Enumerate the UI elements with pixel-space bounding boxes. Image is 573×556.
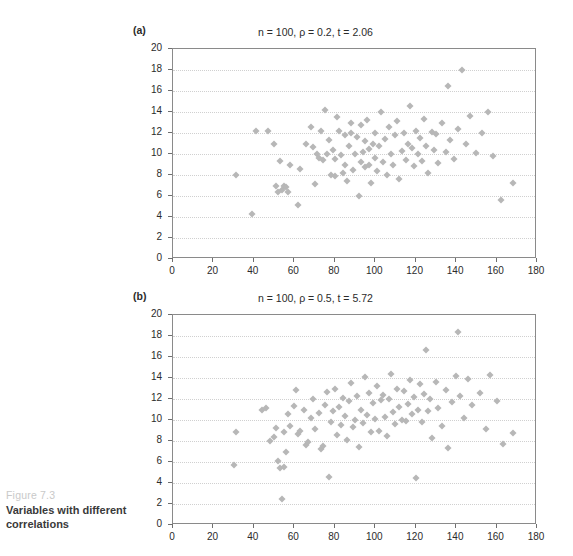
data-point [493, 398, 500, 405]
data-point [404, 401, 411, 408]
xtick-label-20: 20 [197, 532, 227, 542]
ytick-mark-10 [168, 419, 172, 420]
ytick-mark-8 [168, 440, 172, 441]
data-point [281, 428, 288, 435]
data-point [293, 386, 300, 393]
data-point [273, 425, 280, 432]
data-point [469, 402, 476, 409]
data-point [426, 395, 433, 402]
data-point [333, 431, 340, 438]
gridline-y-16 [173, 357, 535, 358]
data-point [422, 346, 429, 353]
ytick-label-12: 12 [138, 393, 162, 403]
xtick-mark-80 [334, 524, 335, 528]
ytick-label-10: 10 [138, 414, 162, 424]
data-point [297, 427, 304, 434]
xtick-label-120: 120 [400, 532, 430, 542]
data-point [372, 415, 379, 422]
xtick-mark-160 [496, 524, 497, 528]
data-point [305, 439, 312, 446]
data-point [287, 423, 294, 430]
ytick-label-16: 16 [138, 351, 162, 361]
ytick-mark-4 [168, 482, 172, 483]
data-point [444, 445, 451, 452]
data-point [420, 390, 427, 397]
data-point [442, 386, 449, 393]
ytick-mark-20 [168, 314, 172, 315]
ytick-label-6: 6 [138, 456, 162, 466]
data-point [424, 407, 431, 414]
xtick-mark-60 [293, 524, 294, 528]
data-point [455, 328, 462, 335]
data-point [337, 422, 344, 429]
xtick-mark-100 [374, 524, 375, 528]
data-point [400, 387, 407, 394]
data-point [509, 429, 516, 436]
data-point [406, 377, 413, 384]
data-point [321, 402, 328, 409]
ytick-mark-16 [168, 356, 172, 357]
ytick-label-18: 18 [138, 330, 162, 340]
data-point [434, 405, 441, 412]
data-point [366, 389, 373, 396]
xtick-label-60: 60 [278, 532, 308, 542]
data-point [285, 410, 292, 417]
ytick-mark-2 [168, 503, 172, 504]
xtick-mark-140 [455, 524, 456, 528]
data-point [279, 495, 286, 502]
xtick-label-180: 180 [521, 532, 551, 542]
xtick-label-160: 160 [481, 532, 511, 542]
xtick-label-100: 100 [359, 532, 389, 542]
xtick-mark-180 [536, 524, 537, 528]
data-point [384, 432, 391, 439]
panel-label-b: (b) [133, 290, 146, 302]
data-point [311, 426, 318, 433]
data-point [386, 395, 393, 402]
data-point [230, 462, 237, 469]
data-point [358, 406, 365, 413]
data-point [331, 385, 338, 392]
data-point [323, 388, 330, 395]
data-point [376, 427, 383, 434]
data-point [396, 404, 403, 411]
gridline-y-6 [173, 462, 535, 463]
xtick-mark-120 [415, 524, 416, 528]
data-point [301, 406, 308, 413]
data-point [414, 406, 421, 413]
data-point [309, 395, 316, 402]
ytick-label-4: 4 [138, 477, 162, 487]
data-point [388, 370, 395, 377]
gridline-y-14 [173, 378, 535, 379]
data-point [355, 444, 362, 451]
ytick-mark-6 [168, 461, 172, 462]
panel-title-b: n = 100, ρ = 0.5, t = 5.72 [258, 292, 373, 304]
data-point [291, 403, 298, 410]
ytick-mark-12 [168, 398, 172, 399]
data-point [499, 441, 506, 448]
xtick-label-140: 140 [440, 532, 470, 542]
xtick-mark-40 [253, 524, 254, 528]
gridline-y-8 [173, 441, 535, 442]
data-point [483, 426, 490, 433]
data-point [349, 424, 356, 431]
xtick-label-40: 40 [238, 532, 268, 542]
figure-number: Figure 7.3 [6, 488, 146, 502]
data-point [465, 376, 472, 383]
gridline-y-2 [173, 504, 535, 505]
data-point [370, 400, 377, 407]
scatter-plot-b [172, 314, 536, 524]
data-point [232, 428, 239, 435]
data-point [412, 474, 419, 481]
ytick-label-14: 14 [138, 372, 162, 382]
figure-title: Variables with different correlations [6, 503, 146, 531]
data-point [416, 381, 423, 388]
ytick-label-8: 8 [138, 435, 162, 445]
data-point [347, 380, 354, 387]
xtick-mark-20 [212, 524, 213, 528]
gridline-y-18 [173, 336, 535, 337]
data-point [432, 379, 439, 386]
data-point [341, 412, 348, 419]
gridline-y-12 [173, 399, 535, 400]
data-point [362, 373, 369, 380]
data-point [325, 473, 332, 480]
